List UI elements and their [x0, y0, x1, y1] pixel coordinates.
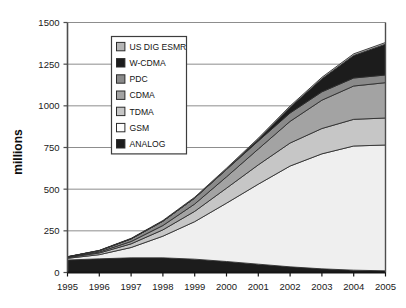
x-tick-label-2000: 2000: [216, 281, 237, 292]
x-tick-label-1996: 1996: [89, 281, 110, 292]
x-tick-label-2001: 2001: [248, 281, 269, 292]
x-tick-label-1999: 1999: [184, 281, 205, 292]
y-tick-label-1250: 1250: [38, 59, 59, 70]
legend-label: PDC: [130, 74, 148, 84]
legend-item-gsm[interactable]: GSM: [117, 123, 150, 133]
legend-swatch-icon: [117, 75, 125, 83]
y-tick-label-1500: 1500: [38, 17, 59, 28]
legend-item-tdma[interactable]: TDMA: [117, 107, 155, 117]
chart-canvas: 0250500750100012501500 19951996199719981…: [0, 0, 406, 308]
y-axis-title-text: millions: [11, 129, 25, 175]
x-tick-label-2004: 2004: [343, 281, 364, 292]
legend-label: CDMA: [130, 90, 156, 100]
y-tick-label-250: 250: [44, 225, 60, 236]
x-tick-label-2003: 2003: [311, 281, 332, 292]
x-tick-label-1998: 1998: [152, 281, 173, 292]
legend-label: US DIG ESMR: [130, 42, 187, 52]
chart-legend: US DIG ESMRW-CDMAPDCCDMATDMAGSMANALOG: [112, 37, 187, 154]
legend-swatch-icon: [117, 59, 125, 67]
y-tick-label-750: 750: [44, 142, 60, 153]
y-tick-label-1000: 1000: [38, 100, 59, 111]
legend-item-pdc[interactable]: PDC: [117, 74, 148, 84]
stacked-area-chart: 0250500750100012501500 19951996199719981…: [0, 0, 406, 308]
legend-label: TDMA: [130, 107, 155, 117]
legend-swatch-icon: [117, 107, 125, 115]
legend-swatch-icon: [117, 123, 125, 131]
legend-item-w-cdma[interactable]: W-CDMA: [117, 58, 166, 68]
legend-item-cdma[interactable]: CDMA: [117, 90, 156, 100]
y-tick-label-0: 0: [54, 267, 59, 278]
x-tick-label-2002: 2002: [280, 281, 301, 292]
legend-swatch-icon: [117, 140, 125, 148]
legend-label: GSM: [130, 123, 150, 133]
x-tick-label-1997: 1997: [121, 281, 142, 292]
x-axis-tick-labels: 1995199619971998199920002001200220032004…: [57, 281, 396, 292]
legend-swatch-icon: [117, 42, 125, 50]
legend-item-analog[interactable]: ANALOG: [117, 139, 166, 149]
y-axis-title: millions: [11, 129, 25, 175]
y-tick-label-500: 500: [44, 184, 60, 195]
legend-label: W-CDMA: [130, 58, 166, 68]
legend-swatch-icon: [117, 91, 125, 99]
x-tick-label-1995: 1995: [57, 281, 78, 292]
legend-label: ANALOG: [130, 139, 166, 149]
x-tick-label-2005: 2005: [375, 281, 396, 292]
